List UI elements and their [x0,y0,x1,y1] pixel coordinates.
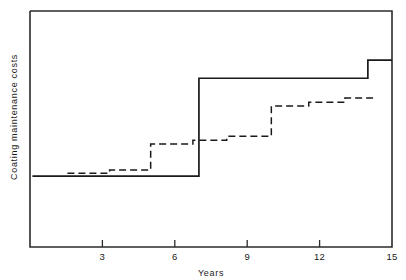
x-tick-label-6: 6 [172,251,178,262]
x-axis-ticks [102,240,319,247]
plot-frame [30,11,392,247]
y-axis-title: Coating maintenance costs [9,54,19,180]
x-tick-label-12: 12 [314,251,325,262]
series-line-solid [32,60,392,176]
x-axis-title: Years [198,268,224,278]
x-tick-label-3: 3 [100,251,106,262]
chart-figure: 3691215 Coating maintenance costs Years [0,0,406,280]
x-tick-label-15: 15 [386,251,397,262]
frame-border [30,11,392,247]
series-group [32,60,392,176]
series-line-dashed [67,98,375,173]
x-axis-tick-labels: 3691215 [100,251,398,262]
chart-canvas: 3691215 Coating maintenance costs Years [0,0,406,280]
x-tick-label-9: 9 [244,251,250,262]
